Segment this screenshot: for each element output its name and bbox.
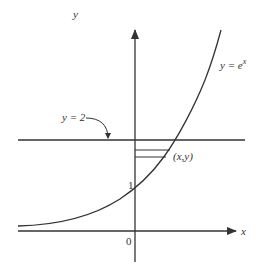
- y-tick-1: 1: [128, 179, 134, 191]
- point-label: (x,y): [173, 150, 193, 163]
- x-axis-label: x: [240, 225, 246, 237]
- exponential-region-diagram: y y = ex y = 2 (x,y) 1 0 x: [0, 0, 262, 266]
- curve-label: y = ex: [219, 57, 247, 71]
- origin-label: 0: [126, 235, 132, 247]
- diagram: y y = ex y = 2 (x,y) 1 0 x: [0, 0, 262, 266]
- y-axis-label: y: [72, 8, 78, 20]
- exponential-curve: [18, 30, 221, 226]
- label-leader-arrow: [86, 118, 108, 138]
- line-label: y = 2: [61, 111, 86, 123]
